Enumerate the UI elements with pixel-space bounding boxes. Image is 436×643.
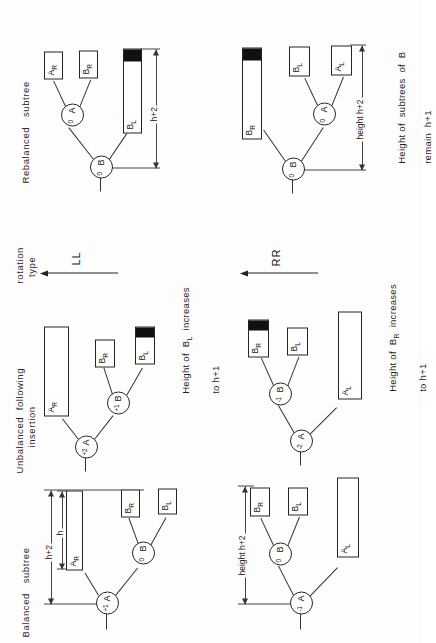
ll-rebalanced-dim-arrow-right xyxy=(153,49,159,55)
ll-balanced-child-balance: 0 xyxy=(138,558,145,561)
rr-rotation-label: RR xyxy=(270,248,282,266)
rr-balanced-edge-root-b xyxy=(278,565,294,595)
rr-rebalanced-caption-line2: remain h+1 xyxy=(422,110,433,164)
ll-balanced-box-ar: AR xyxy=(66,490,83,570)
rr-balanced-box-br: BR xyxy=(250,487,270,516)
rr-rebalanced-root-balance: 0 xyxy=(288,174,295,177)
rr-rebalanced-box-br-fill xyxy=(243,48,261,60)
rr-balanced-box-al-label: AL xyxy=(339,544,351,553)
rr-unbalanced-box-br-fill xyxy=(249,320,268,330)
ll-balanced-dim-h-arrow-right xyxy=(59,491,65,497)
ll-unbalanced-edge-root-ar xyxy=(62,418,79,439)
ll-unbalanced-edge-root-b xyxy=(93,415,113,441)
rr-balanced-box-br-label: BR xyxy=(252,502,264,512)
column-title-rebalanced: Rebalanced subtree xyxy=(20,33,32,183)
rr-rebalanced-child-balance: 0 xyxy=(319,119,326,122)
rr-unbalanced-box-br-label: BR xyxy=(250,343,262,353)
ll-balanced-child-node: 0 B xyxy=(132,541,155,564)
column-title-unbalanced: Unbalanced following insertion xyxy=(14,333,38,473)
ll-balanced-panel: +1 A AR 0 B BR BL xyxy=(40,478,190,643)
ll-rebalanced-root-stub xyxy=(100,177,101,191)
ll-rebalanced-dim-label: h+2 xyxy=(149,105,159,123)
ll-rebalanced-edge-a-ar xyxy=(53,80,66,106)
rr-balanced-root-node: -1 A xyxy=(290,591,313,614)
ll-unbalanced-child-balance: +1 xyxy=(113,404,120,411)
ll-balanced-box-bl: BL xyxy=(158,488,177,514)
ll-balanced-box-br: BR xyxy=(121,489,140,517)
rr-rebalanced-box-bl-label: BL xyxy=(291,63,303,72)
ll-rebalanced-box-ar-label: AR xyxy=(46,65,58,75)
ll-unbalanced-box-br-label: BR xyxy=(97,353,109,363)
rr-balanced-dim-label: height h+2 xyxy=(237,533,247,577)
rr-unbalanced-box-bl: BL xyxy=(287,327,308,355)
ll-rebalanced-root-name: B xyxy=(96,159,106,165)
rr-rebalanced-box-al: AL xyxy=(331,45,352,75)
ll-balanced-dim-h-arrow-left xyxy=(59,563,65,569)
rr-balanced-dim-arrow-right xyxy=(242,486,248,492)
ll-unbalanced-root-balance: +2 xyxy=(81,448,88,455)
ll-balanced-child-name: B xyxy=(138,545,148,551)
ll-unbalanced-edge-b-bl xyxy=(126,367,143,395)
rr-balanced-child-name: B xyxy=(275,546,285,552)
ll-balanced-box-br-label: BR xyxy=(123,503,135,513)
rr-rebalanced-dim-tick-left xyxy=(304,169,366,170)
rr-balanced-box-bl-label: BL xyxy=(290,502,302,511)
ll-balanced-dim-h2-arrow-right xyxy=(48,490,54,496)
ll-unbalanced-box-br: BR xyxy=(95,339,115,367)
column-title-rotation: rotation type xyxy=(14,213,38,283)
ll-unbalanced-panel: +2 A AR +1 B BR BL Height xyxy=(40,301,200,471)
rr-rebalanced-dim-arrow-left xyxy=(359,164,365,170)
ll-balanced-dim-h2-label: h+2 xyxy=(44,543,54,561)
rr-rebalanced-root-stub xyxy=(292,179,293,193)
ll-unbalanced-edge-b-br xyxy=(103,367,113,394)
column-title-balanced: Balanced subtree xyxy=(20,517,32,637)
rr-rebalanced-caption: Height of subtrees of B remain h+1 xyxy=(382,51,436,181)
rr-rotation-arrow-head xyxy=(240,270,248,276)
rr-unbalanced-caption-main: Height of B xyxy=(387,338,398,391)
rr-unbalanced-child-balance: -1 xyxy=(275,397,282,402)
ll-rebalanced-root-balance: 0 xyxy=(96,172,103,175)
ll-unbalanced-box-ar: AR xyxy=(44,326,69,416)
ll-rebalanced-box-ar: AR xyxy=(44,51,63,79)
rr-balanced-child-balance: 0 xyxy=(275,559,282,562)
ll-unbalanced-caption: Height of BL increases to h+1 xyxy=(166,287,235,411)
ll-balanced-edge-root-b xyxy=(114,567,138,596)
ll-rebalanced-edge-a-br xyxy=(79,79,91,107)
rr-rebalanced-edge-a-al xyxy=(331,76,344,106)
rr-rotation-panel: RR xyxy=(240,197,360,287)
rr-unbalanced-panel: -2 A -1 B BR BL AL Height xyxy=(242,290,412,465)
ll-unbalanced-root-stub xyxy=(85,457,86,471)
rr-rebalanced-child-name: A xyxy=(319,106,329,112)
rr-unbalanced-edge-root-al xyxy=(308,407,337,436)
rr-unbalanced-box-br: BR xyxy=(248,319,269,357)
ll-rebalanced-box-br-label: BR xyxy=(81,64,93,74)
ll-unbalanced-caption-line2: to h+1 xyxy=(210,365,221,393)
ll-balanced-box-bl-label: BL xyxy=(160,501,172,510)
ll-balanced-box-ar-label: AR xyxy=(68,556,80,566)
rr-rebalanced-edge-root-a xyxy=(300,127,324,163)
ll-balanced-edge-root-ar xyxy=(85,572,99,595)
rr-rebalanced-root-name: B xyxy=(288,161,298,167)
rr-balanced-dim-arrow-left xyxy=(242,598,248,604)
ll-rebalanced-root-node: 0 B xyxy=(90,155,113,178)
rr-balanced-edge-b-bl xyxy=(287,516,300,546)
rr-rebalanced-caption-main: Height of subtrees of B xyxy=(396,51,407,163)
ll-rebalanced-child-name: A xyxy=(67,107,77,113)
ll-rebalanced-box-bl-fill xyxy=(124,49,141,61)
ll-balanced-root-node: +1 A xyxy=(96,591,119,614)
rr-balanced-edge-b-br xyxy=(260,517,274,545)
ll-balanced-edge-b-bl xyxy=(150,517,166,545)
ll-balanced-dim-h-label: h xyxy=(55,528,65,537)
ll-balanced-root-name: A xyxy=(102,595,112,601)
ll-rebalanced-box-bl: BL xyxy=(123,48,142,133)
ll-rebalanced-edge-root-a xyxy=(68,127,93,159)
ll-rebalanced-child-node: 0 A xyxy=(61,103,84,126)
rr-balanced-root-name: A xyxy=(296,595,306,601)
rr-balanced-root-stub xyxy=(300,613,301,629)
rr-rebalanced-child-node: 0 A xyxy=(313,102,336,125)
rr-rebalanced-box-al-label: AL xyxy=(333,62,345,71)
ll-rebalanced-panel: 0 B 0 A AR BR BL xyxy=(40,11,200,191)
rr-rebalanced-dim-label: height h+2 xyxy=(355,97,365,141)
ll-unbalanced-box-ar-label: AR xyxy=(46,402,58,412)
